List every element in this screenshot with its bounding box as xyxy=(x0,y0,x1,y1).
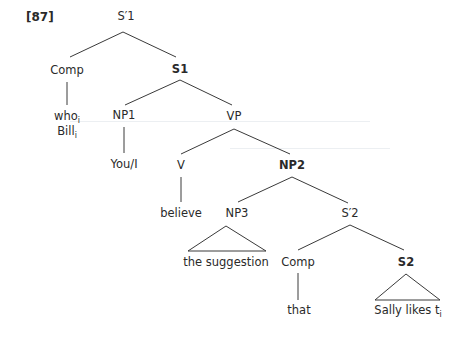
edge-sbar2-s2 xyxy=(350,225,404,250)
leaf-the-suggestion: the suggestion xyxy=(183,257,269,269)
example-number: [87] xyxy=(26,10,54,24)
leaf-that: that xyxy=(287,305,310,317)
index-subscript: i xyxy=(78,116,80,125)
edge-s1-vp xyxy=(180,80,232,105)
node-vp: VP xyxy=(227,111,242,123)
node-np3: NP3 xyxy=(226,208,249,220)
edge-np2-sbar2 xyxy=(292,177,348,203)
leaf-bill: Billi xyxy=(57,126,77,138)
leaf-sally-likes: Sally likes ti xyxy=(374,305,441,317)
node-s-bar-2: S′2 xyxy=(341,208,358,220)
leaf-bill-text: Bill xyxy=(57,124,74,138)
leaf-you-i: You/I xyxy=(110,159,137,171)
triangle-s2 xyxy=(375,274,440,300)
edge-s1bar-comp xyxy=(70,32,123,57)
index-subscript: i xyxy=(75,131,77,140)
leaf-believe: believe xyxy=(160,208,202,220)
trace-subscript: i xyxy=(439,310,441,319)
edge-s1bar-s1 xyxy=(123,32,176,57)
node-s1: S1 xyxy=(172,64,188,76)
leaf-who: whoi xyxy=(54,111,80,123)
node-comp-1: Comp xyxy=(50,65,84,77)
edge-np2-np3 xyxy=(238,177,292,202)
leaf-sally-likes-text: Sally likes t xyxy=(374,303,439,317)
node-np2: NP2 xyxy=(279,160,305,172)
node-comp-2: Comp xyxy=(281,257,315,269)
edge-vp-np2 xyxy=(234,129,290,154)
node-s2: S2 xyxy=(398,257,414,269)
node-np1: NP1 xyxy=(113,110,136,122)
edge-s1-np1 xyxy=(125,80,180,105)
edge-vp-v xyxy=(181,129,234,154)
edge-sbar2-comp xyxy=(298,225,350,250)
syntax-tree-lines xyxy=(0,0,461,338)
node-s-bar-1: S′1 xyxy=(117,11,134,23)
leaf-who-text: who xyxy=(54,109,78,123)
triangle-np3 xyxy=(188,226,266,251)
node-v: V xyxy=(177,160,185,172)
